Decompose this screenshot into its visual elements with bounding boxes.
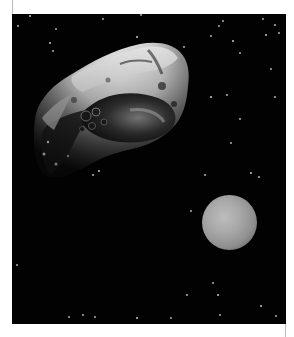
- planet: [202, 195, 257, 250]
- asteroid: [12, 14, 286, 324]
- frame-edge-left: [12, 0, 13, 14]
- frame-edge-right: [285, 324, 286, 337]
- space-photo: [12, 14, 286, 324]
